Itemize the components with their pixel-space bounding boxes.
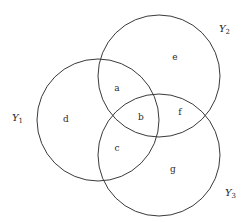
region-label-c: c (114, 143, 119, 153)
region-labels: a b c d e f g (63, 52, 182, 174)
region-label-a: a (114, 83, 120, 93)
venn-diagram: Y1 Y2 Y3 a b c d e f g (0, 0, 251, 222)
set-label-y2: Y2 (219, 23, 230, 36)
region-label-b: b (138, 112, 144, 122)
region-label-e: e (172, 52, 177, 62)
region-label-f: f (178, 107, 182, 117)
set-label-y1: Y1 (12, 112, 23, 125)
region-label-g: g (170, 164, 176, 174)
region-label-d: d (63, 114, 69, 124)
set-label-y3: Y3 (225, 187, 236, 200)
